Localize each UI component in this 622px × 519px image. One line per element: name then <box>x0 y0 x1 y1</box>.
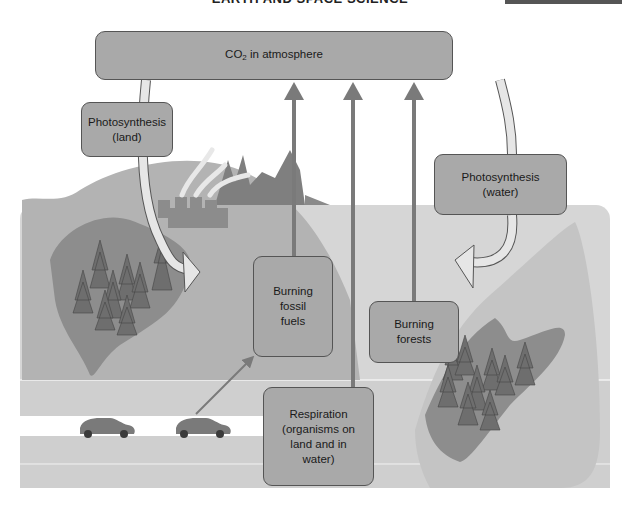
arrowhead-icons <box>284 82 424 100</box>
node-label-line: fuels <box>273 314 313 329</box>
node-label-line: Photosynthesis <box>462 170 540 185</box>
node-label-line: (organisms on <box>282 422 355 437</box>
node-label-line: forests <box>394 332 434 347</box>
node-respiration: Respiration (organisms on land and in wa… <box>263 387 374 486</box>
node-co2-atmosphere: CO2 in atmosphere <box>95 31 453 80</box>
node-label-line: land and in <box>282 437 355 452</box>
node-label-line: water) <box>282 452 355 467</box>
carbon-cycle-diagram: EARTH AND SPACE SCIENCE <box>0 0 622 519</box>
node-label-line: Respiration <box>282 407 355 422</box>
node-photosynthesis-land: Photosynthesis (land) <box>81 102 173 157</box>
node-label-line: fossil <box>273 299 313 314</box>
node-label-line: Photosynthesis <box>88 115 166 130</box>
node-label-line: Burning <box>273 284 313 299</box>
node-label-line: (land) <box>88 130 166 145</box>
node-burning-forests: Burning forests <box>369 301 459 363</box>
node-label-line: (water) <box>462 185 540 200</box>
node-label-line: Burning <box>394 317 434 332</box>
node-photosynthesis-water: Photosynthesis (water) <box>434 154 567 215</box>
node-label: CO2 in atmosphere <box>225 47 323 65</box>
node-burning-fossil-fuels: Burning fossil fuels <box>253 256 333 357</box>
